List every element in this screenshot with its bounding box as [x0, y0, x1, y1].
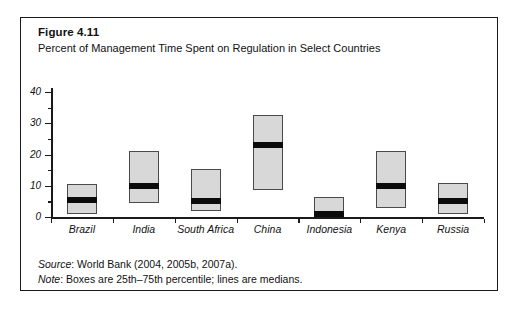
y-major-tick-30: [45, 123, 51, 124]
median-indonesia: [314, 211, 344, 217]
y-major-tick-20: [45, 155, 51, 156]
median-brazil: [67, 197, 97, 203]
x-label-china: China: [233, 223, 303, 235]
x-boundary-tick-5: [360, 219, 361, 223]
y-tick-label-30: 30: [19, 118, 41, 128]
median-russia: [438, 198, 468, 204]
source-label: Source: [38, 258, 71, 270]
y-tick-label-40: 40: [19, 87, 41, 97]
box-kenya: [376, 151, 406, 207]
median-china: [253, 142, 283, 148]
y-major-tick-10: [45, 186, 51, 187]
x-label-kenya: Kenya: [356, 223, 426, 235]
x-boundary-tick-0: [51, 219, 52, 223]
x-label-india: India: [109, 223, 179, 235]
x-boundary-tick-2: [175, 219, 176, 223]
y-minor-tick-25: [48, 139, 52, 140]
y-minor-tick-15: [48, 170, 52, 171]
x-boundary-tick-1: [113, 219, 114, 223]
source-text: : World Bank (2004, 2005b, 2007a).: [71, 258, 237, 270]
box-india: [129, 151, 159, 203]
box-plot-area: 010203040BrazilIndiaSouth AfricaChinaInd…: [21, 18, 497, 290]
figure-frame: Figure 4.11 Percent of Management Time S…: [20, 17, 498, 291]
y-major-tick-0: [45, 217, 51, 218]
y-axis-line: [51, 88, 53, 219]
note-line: Note: Boxes are 25th–75th percentile; li…: [38, 272, 302, 287]
note-label: Note: [38, 273, 60, 285]
box-south-africa: [191, 169, 221, 211]
note-text: : Boxes are 25th–75th percentile; lines …: [60, 273, 302, 285]
x-label-brazil: Brazil: [47, 223, 117, 235]
y-minor-tick-5: [48, 201, 52, 202]
x-axis-line: [51, 217, 484, 219]
x-boundary-tick-7: [484, 219, 485, 223]
x-boundary-tick-4: [298, 219, 299, 223]
x-boundary-tick-3: [237, 219, 238, 223]
y-tick-label-10: 10: [19, 181, 41, 191]
x-boundary-tick-6: [422, 219, 423, 223]
median-south-africa: [191, 198, 221, 204]
median-india: [129, 183, 159, 189]
x-label-indonesia: Indonesia: [294, 223, 364, 235]
y-minor-tick-35: [48, 108, 52, 109]
y-tick-label-0: 0: [19, 212, 41, 222]
x-label-russia: Russia: [418, 223, 488, 235]
y-tick-label-20: 20: [19, 150, 41, 160]
box-china: [253, 115, 283, 190]
source-line: Source: World Bank (2004, 2005b, 2007a).: [38, 257, 237, 272]
median-kenya: [376, 183, 406, 189]
y-major-tick-40: [45, 92, 51, 93]
figure-4-11-screenshot: Figure 4.11 Percent of Management Time S…: [0, 0, 517, 309]
x-label-south-africa: South Africa: [171, 223, 241, 235]
